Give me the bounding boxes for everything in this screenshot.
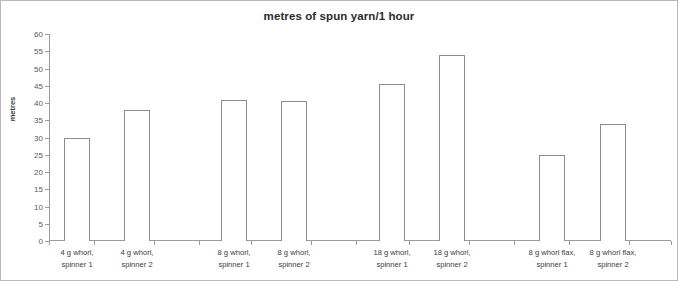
x-axis-tick-mark [356,241,357,245]
x-axis-category-label-line: spinner 2 [97,259,177,271]
x-axis-category-label-line: 8 g whorl flax, [573,247,653,259]
x-axis-tick-mark [409,241,410,245]
x-axis-tick-mark [251,241,252,245]
bar [221,100,247,241]
y-axis-tick-label: 35 [34,116,43,125]
bar [281,101,307,241]
chart-title: metres of spun yarn/1 hour [1,10,677,22]
y-axis-tick-label: 5 [39,219,43,228]
chart-container: metres of spun yarn/1 hour metres 051015… [0,0,678,281]
x-axis-category-labels: 4 g whorl,spinner 14 g whorl,spinner 28 … [49,247,671,277]
x-axis-tick-mark [671,241,672,245]
x-axis-tick-mark [94,241,95,245]
y-axis-tick-label: 15 [34,185,43,194]
y-axis-tick-label: 0 [39,237,43,246]
x-axis-tick-mark [311,241,312,245]
y-axis-tick-mark [45,189,49,190]
x-axis-tick-mark [154,241,155,245]
bar [439,55,465,241]
x-axis-category-label-line: spinner 2 [573,259,653,271]
x-axis-category-label-line: 4 g whorl, [97,247,177,259]
x-axis-category-label: 8 g whorl,spinner 2 [254,247,334,270]
x-axis-tick-mark [569,241,570,245]
y-axis-tick-label: 55 [34,47,43,56]
y-axis-tick-label: 25 [34,150,43,159]
bar [600,124,626,241]
y-axis-tick-label: 30 [34,133,43,142]
plot-area: 051015202530354045505560 [49,34,671,241]
x-axis-category-label-line: spinner 2 [254,259,334,271]
y-axis-tick-mark [45,34,49,35]
y-axis-tick-label: 50 [34,64,43,73]
y-axis-tick-mark [45,51,49,52]
y-axis-line [49,34,50,241]
x-axis-tick-mark [514,241,515,245]
y-axis-tick-label: 20 [34,168,43,177]
x-axis-category-label-line: spinner 2 [412,259,492,271]
x-axis-tick-mark [629,241,630,245]
y-axis-tick-label: 60 [34,30,43,39]
y-axis-tick-mark [45,120,49,121]
x-axis-tick-mark [49,241,50,245]
y-axis-tick-mark [45,155,49,156]
y-axis-tick-mark [45,207,49,208]
y-axis-tick-label: 45 [34,81,43,90]
x-axis-category-label-line: 18 g whorl, [412,247,492,259]
x-axis-category-label-line: 8 g whorl, [254,247,334,259]
bar [539,155,565,241]
y-axis-tick-mark [45,86,49,87]
x-axis-tick-mark [469,241,470,245]
bar [379,84,405,241]
x-axis-category-label: 18 g whorl,spinner 2 [412,247,492,270]
y-axis-tick-label: 40 [34,99,43,108]
y-axis-tick-mark [45,103,49,104]
y-axis-tick-mark [45,138,49,139]
x-axis-category-label: 8 g whorl flax,spinner 2 [573,247,653,270]
x-axis-tick-mark [199,241,200,245]
bar [124,110,150,241]
bar [64,138,90,242]
y-axis-tick-label: 10 [34,202,43,211]
y-axis-tick-mark [45,172,49,173]
y-axis-tick-mark [45,224,49,225]
x-axis-category-label: 4 g whorl,spinner 2 [97,247,177,270]
y-axis-title: metres [8,79,17,139]
y-axis-tick-mark [45,69,49,70]
